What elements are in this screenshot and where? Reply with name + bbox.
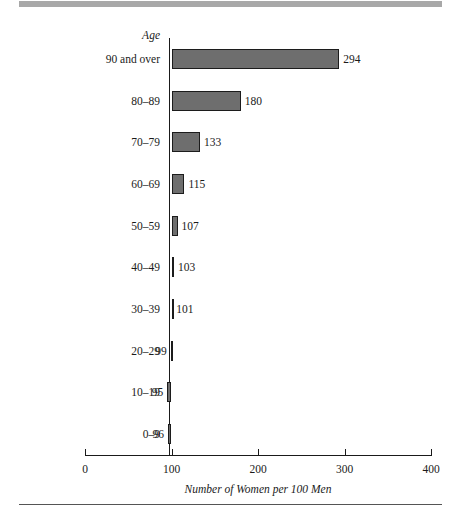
x-tick-label: 100 [142, 463, 202, 475]
category-label: 0–9 [20, 428, 160, 440]
category-label: 90 and over [20, 53, 160, 65]
x-tick-mark [345, 449, 346, 456]
bar [167, 382, 171, 402]
x-tick-label: 400 [401, 463, 461, 475]
category-label: 80–89 [20, 95, 160, 107]
category-label: 60–69 [20, 178, 160, 190]
x-tick-mark [258, 449, 259, 456]
bar-value-label: 180 [245, 95, 262, 107]
bar-value-label: 99 [149, 345, 167, 357]
category-label: 40–49 [20, 261, 160, 273]
x-tick-label: 300 [315, 463, 375, 475]
bar-value-label: 115 [188, 178, 205, 190]
x-tick-mark [172, 449, 173, 456]
category-label: 30–39 [20, 303, 160, 315]
bar [172, 257, 175, 277]
x-axis-title: Number of Women per 100 Men [85, 483, 431, 495]
bar [172, 132, 201, 152]
bar [172, 299, 174, 319]
bar-value-label: 294 [343, 53, 360, 65]
x-tick-mark [431, 449, 432, 456]
bar [168, 424, 171, 444]
bar [172, 49, 340, 69]
category-label: 70–79 [20, 136, 160, 148]
bar [172, 216, 178, 236]
x-tick-label: 0 [55, 463, 115, 475]
category-label: 10–19 [20, 386, 160, 398]
bar [171, 341, 173, 361]
bar [172, 174, 185, 194]
bar-value-label: 133 [204, 136, 221, 148]
category-label: 50–59 [20, 220, 160, 232]
y-axis-title: Age [20, 29, 160, 41]
bar-value-label: 103 [178, 261, 195, 273]
category-label: 20–29 [20, 345, 160, 357]
x-tick-label: 200 [228, 463, 288, 475]
bar-value-label: 101 [176, 303, 193, 315]
x-tick-mark [85, 449, 86, 456]
bar [172, 91, 241, 111]
bar-value-label: 107 [182, 220, 199, 232]
bottom-rule [19, 504, 442, 505]
bar-chart: Age 90 and over80–8970–7960–6950–5940–49… [0, 0, 462, 526]
bar-value-label: 95 [145, 386, 163, 398]
bar-value-label: 96 [146, 428, 164, 440]
